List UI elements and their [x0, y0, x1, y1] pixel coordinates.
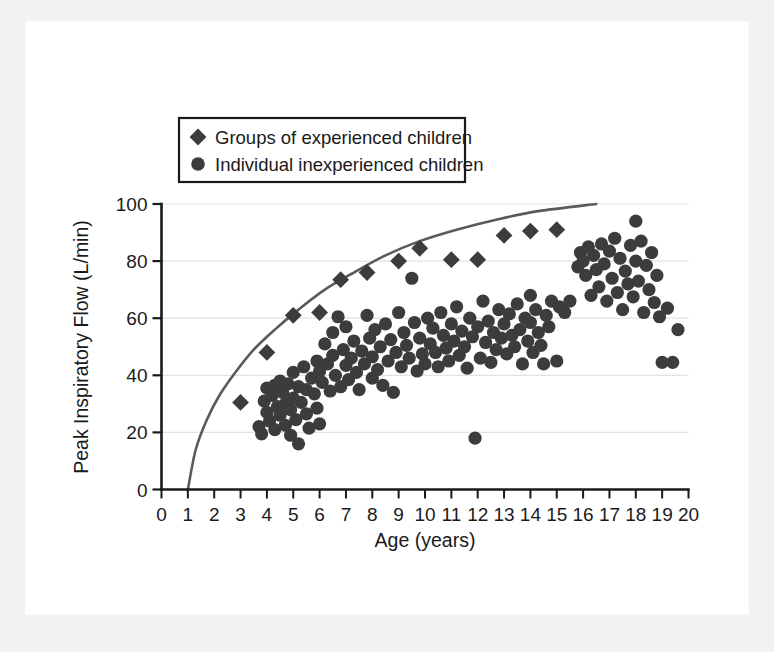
data-point-circle: [598, 257, 611, 270]
data-point-circle: [645, 246, 658, 259]
data-point-circle: [418, 357, 431, 370]
data-point-circle: [508, 340, 521, 353]
data-point-circle: [308, 387, 321, 400]
x-tick-label-9: 9: [393, 504, 404, 525]
scatter-chart-svg: 020406080100 012345678910111213141516171…: [0, 0, 774, 652]
data-point-circle: [468, 432, 481, 445]
data-point-circle: [592, 280, 605, 293]
data-point-circle: [619, 264, 632, 277]
data-point-circle: [605, 272, 618, 285]
data-point-circle: [255, 427, 268, 440]
data-point-diamond: [390, 253, 407, 270]
data-point-diamond: [496, 227, 513, 244]
data-point-circle: [637, 306, 650, 319]
x-tick-label-17: 17: [599, 504, 620, 525]
data-point-circle: [629, 215, 642, 228]
data-point-circle: [611, 286, 624, 299]
y-tick-label-0: 0: [137, 480, 148, 501]
data-point-diamond: [443, 251, 460, 268]
data-point-circle: [550, 354, 563, 367]
x-tick-label-5: 5: [288, 504, 299, 525]
series-individual-inexperienced-children: [252, 215, 684, 451]
data-point-circle: [392, 306, 405, 319]
data-point-circle: [632, 274, 645, 287]
y-tick-label-100: 100: [116, 194, 148, 215]
data-point-circle: [634, 235, 647, 248]
x-tick-label-4: 4: [262, 504, 273, 525]
chart-legend: Groups of experienced childrenIndividual…: [179, 118, 483, 182]
data-point-circle: [484, 356, 497, 369]
data-point-circle: [313, 417, 326, 430]
data-point-circle: [353, 383, 366, 396]
data-point-circle: [434, 306, 447, 319]
x-tick-label-14: 14: [520, 504, 542, 525]
x-tick-label-19: 19: [652, 504, 673, 525]
data-point-diamond: [522, 223, 539, 240]
data-point-circle: [387, 386, 400, 399]
data-point-circle: [450, 300, 463, 313]
data-point-circle: [339, 320, 352, 333]
data-point-circle: [537, 357, 550, 370]
chart-figure: 020406080100 012345678910111213141516171…: [0, 0, 774, 652]
data-point-circle: [371, 363, 384, 376]
data-point-circle: [642, 283, 655, 296]
data-point-circle: [360, 309, 373, 322]
data-point-circle: [608, 232, 621, 245]
data-point-circle: [403, 352, 416, 365]
data-point-diamond: [259, 344, 276, 361]
data-point-diamond: [359, 264, 376, 281]
data-point-circle: [292, 437, 305, 450]
data-point-circle: [405, 272, 418, 285]
x-axis-title: Age (years): [375, 529, 476, 551]
data-point-circle: [613, 252, 626, 265]
data-point-diamond: [232, 394, 249, 411]
data-point-circle: [640, 259, 653, 272]
x-tick-label-15: 15: [546, 504, 567, 525]
x-tick-label-3: 3: [235, 504, 246, 525]
data-point-diamond: [469, 251, 486, 268]
data-point-circle: [563, 294, 576, 307]
data-point-circle: [600, 294, 613, 307]
data-point-circle: [540, 309, 553, 322]
data-point-circle: [534, 339, 547, 352]
x-tick-label-16: 16: [573, 504, 594, 525]
x-tick-label-2: 2: [209, 504, 220, 525]
data-point-circle: [297, 360, 310, 373]
y-tick-label-60: 60: [126, 308, 147, 329]
data-point-circle: [587, 249, 600, 262]
data-point-circle: [521, 334, 534, 347]
y-tick-label-40: 40: [126, 365, 147, 386]
data-point-circle: [408, 316, 421, 329]
data-point-circle: [627, 290, 640, 303]
legend-marker-circle-icon: [191, 157, 205, 171]
data-point-circle: [461, 362, 474, 375]
data-point-circle: [661, 302, 674, 315]
y-tick-label-80: 80: [126, 251, 147, 272]
data-point-circle: [318, 337, 331, 350]
data-point-circle: [482, 314, 495, 327]
x-tick-label-7: 7: [341, 504, 352, 525]
data-point-circle: [400, 339, 413, 352]
x-tick-label-6: 6: [314, 504, 325, 525]
data-point-circle: [558, 306, 571, 319]
legend-label-0: Groups of experienced children: [215, 127, 472, 148]
y-axis-tick-labels: 020406080100: [116, 194, 148, 501]
x-tick-label-11: 11: [441, 504, 461, 525]
x-tick-label-0: 0: [156, 504, 167, 525]
y-tick-label-20: 20: [126, 422, 147, 443]
data-point-circle: [384, 333, 397, 346]
legend-label-1: Individual inexperienced children: [215, 154, 483, 175]
data-point-circle: [476, 294, 489, 307]
x-tick-label-10: 10: [414, 504, 435, 525]
x-axis-tick-labels: 01234567891011121314151617181920: [156, 504, 699, 525]
data-point-circle: [511, 297, 524, 310]
data-point-circle: [310, 402, 323, 415]
x-tick-label-18: 18: [625, 504, 646, 525]
x-tick-label-20: 20: [678, 504, 699, 525]
data-point-circle: [616, 303, 629, 316]
x-tick-label-1: 1: [183, 504, 194, 525]
x-tick-label-8: 8: [367, 504, 378, 525]
y-axis-title: Peak Inspiratory Flow (L/min): [70, 220, 92, 474]
y-axis-ticks: [153, 204, 162, 490]
data-point-circle: [326, 326, 339, 339]
